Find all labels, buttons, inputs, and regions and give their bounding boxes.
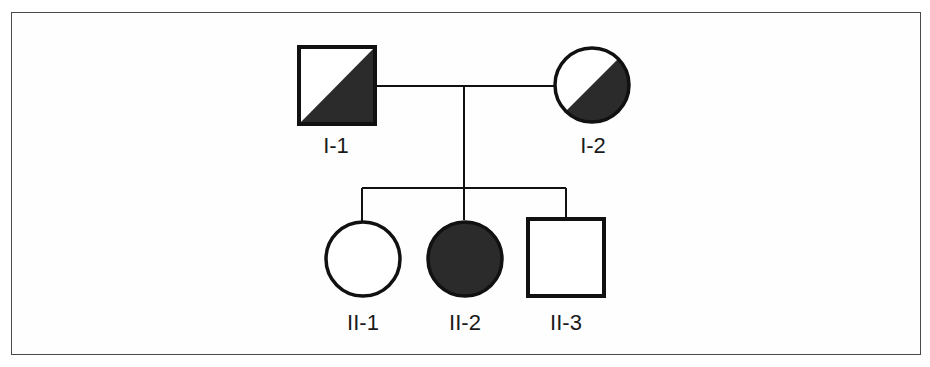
pedigree-chart: I-1 I-2 II-1 II-2 II-3 xyxy=(0,0,930,367)
individual-ii-3[interactable] xyxy=(528,219,604,296)
label-i-2: I-2 xyxy=(580,133,606,158)
label-i-1: I-1 xyxy=(323,133,349,158)
label-ii-1: II-1 xyxy=(347,310,379,335)
individual-ii-2[interactable] xyxy=(428,222,502,296)
male-square-symbol xyxy=(528,219,604,296)
individual-i-2[interactable] xyxy=(544,37,640,133)
individual-i-1[interactable] xyxy=(299,47,375,124)
label-ii-2: II-2 xyxy=(449,310,481,335)
label-ii-3: II-3 xyxy=(550,310,582,335)
pedigree-lines xyxy=(362,86,566,221)
individual-ii-1[interactable] xyxy=(326,222,400,296)
affected-female-circle-symbol xyxy=(428,222,502,296)
female-circle-symbol xyxy=(326,222,400,296)
